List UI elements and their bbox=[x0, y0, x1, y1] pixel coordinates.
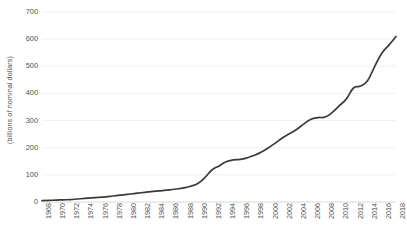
x-axis-tick-label: 1988 bbox=[187, 203, 194, 219]
x-axis-tick-label: 2014 bbox=[371, 203, 378, 219]
data-series-line bbox=[42, 36, 396, 200]
x-axis-tick-label: 1998 bbox=[257, 203, 264, 219]
y-axis-tick-labels: 0100200300400500600700 bbox=[8, 0, 38, 236]
x-axis-tick-label: 1982 bbox=[144, 203, 151, 219]
x-axis-tick-label: 1980 bbox=[130, 203, 137, 219]
y-axis-tick-label: 700 bbox=[12, 8, 38, 15]
x-axis-tick-label: 1992 bbox=[215, 203, 222, 219]
x-axis-tick-label: 2012 bbox=[357, 203, 364, 219]
x-axis-tick-labels: 1968197019721974197619781980198219841986… bbox=[42, 203, 396, 236]
y-axis-tick-label: 0 bbox=[12, 198, 38, 205]
x-axis-tick-label: 2004 bbox=[300, 203, 307, 219]
x-axis-tick-label: 1978 bbox=[116, 203, 123, 219]
x-axis-tick-label: 1990 bbox=[201, 203, 208, 219]
y-axis-tick-label: 100 bbox=[12, 171, 38, 178]
x-axis-tick-label: 1986 bbox=[172, 203, 179, 219]
x-axis-tick-label: 1996 bbox=[243, 203, 250, 219]
x-axis-tick-label: 1972 bbox=[73, 203, 80, 219]
y-axis-tick-label: 200 bbox=[12, 144, 38, 151]
x-axis-tick-label: 1968 bbox=[45, 203, 52, 219]
x-axis-tick-label: 2006 bbox=[314, 203, 321, 219]
x-axis-tick-label: 1974 bbox=[87, 203, 94, 219]
x-axis-tick-label: 2018 bbox=[399, 203, 406, 219]
x-axis-tick-label: 2010 bbox=[342, 203, 349, 219]
plot-svg bbox=[42, 12, 396, 202]
y-axis-tick-label: 400 bbox=[12, 89, 38, 96]
y-axis-tick-label: 300 bbox=[12, 117, 38, 124]
x-axis-tick-label: 1976 bbox=[102, 203, 109, 219]
x-axis-tick-label: 1970 bbox=[59, 203, 66, 219]
x-axis-tick-label: 2002 bbox=[286, 203, 293, 219]
gridlines bbox=[42, 12, 396, 202]
y-axis-tick-label: 600 bbox=[12, 35, 38, 42]
x-axis-tick-label: 1984 bbox=[158, 203, 165, 219]
y-axis-tick-label: 500 bbox=[12, 62, 38, 69]
x-axis-tick-label: 2016 bbox=[385, 203, 392, 219]
x-axis-tick-label: 2008 bbox=[328, 203, 335, 219]
x-axis-tick-label: 1994 bbox=[229, 203, 236, 219]
plot-area bbox=[42, 12, 396, 202]
x-axis-tick-label: 2000 bbox=[272, 203, 279, 219]
